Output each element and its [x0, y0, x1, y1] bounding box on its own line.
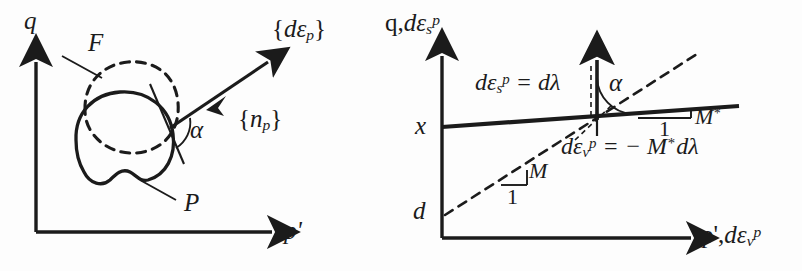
slope-M-star-sup: *: [713, 106, 720, 121]
P-leader-line: [140, 180, 176, 200]
slope-M-star-base: M: [695, 104, 713, 129]
left-alpha-label: α: [190, 117, 203, 142]
brace-close: }: [314, 15, 326, 42]
normal-vector-base: n: [250, 105, 263, 132]
eq-vol-sup: p: [589, 135, 596, 151]
right-y-axis-label: q,dεsp: [385, 10, 440, 37]
plastic-strain-increment-label: {dεp}: [272, 16, 326, 43]
yield-surface-panel: q p' F P α {dεp} {np}: [0, 0, 401, 271]
slope-label-M-star: M*: [695, 106, 720, 128]
left-x-axis-label: p': [284, 218, 302, 243]
y-axis-deps-sup: p: [432, 11, 440, 28]
eq-vol-tail: dλ: [676, 133, 698, 159]
intercept-label-x: x: [415, 113, 426, 138]
eq-shear-rhs: = dλ: [516, 69, 561, 95]
y-axis-deps-base: dε: [404, 9, 426, 36]
strain-increment-sub: p: [306, 26, 314, 43]
yield-surface-label-F: F: [88, 30, 103, 55]
y-axis-q-part: q,: [385, 9, 404, 36]
normal-vector-label: {np}: [238, 106, 282, 133]
slope-run-label-M: 1: [507, 186, 518, 208]
plastic-potential-label-P: P: [184, 190, 199, 215]
brace-close: }: [270, 105, 282, 132]
slope-label-M: M: [529, 160, 547, 182]
brace-open: {: [238, 105, 250, 132]
right-alpha-label: α: [609, 70, 622, 95]
eq-shear-base: dε: [475, 69, 496, 95]
eq-vol-rhs: = − M: [603, 133, 667, 159]
strain-increment-base: dε: [284, 15, 306, 42]
equation-volumetric-strain: dεvp= − M*dλ: [561, 134, 699, 160]
x-axis-deps-base: dε: [724, 221, 746, 248]
figure-root: q p' F P α {dεp} {np}: [0, 0, 802, 271]
stress-dilatancy-panel: q,dεsp p',dεvp x d α dεsp= dλ dεvp= − M*…: [401, 0, 802, 271]
equation-shear-strain: dεsp= dλ: [475, 70, 560, 96]
eq-shear-sup: p: [502, 71, 509, 87]
x-axis-p-part: p',: [701, 221, 724, 248]
slope-run-label-M-star: 1: [659, 118, 670, 140]
intercept-label-d: d: [413, 198, 426, 223]
left-y-axis-label: q: [24, 8, 37, 33]
tangent-reference-line: [150, 84, 184, 164]
brace-open: {: [272, 15, 284, 42]
x-axis-deps-sup: p: [754, 223, 762, 240]
x-axis-deps-sub: v: [747, 232, 754, 249]
eq-vol-base: dε: [561, 133, 582, 159]
F-leader-line: [62, 56, 102, 78]
right-x-axis-label: p',dεvp: [701, 222, 761, 249]
